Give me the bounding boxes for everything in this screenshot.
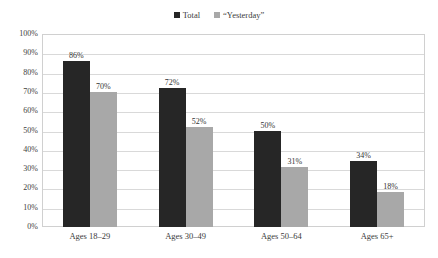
bar-slot: 70%: [90, 34, 117, 227]
legend-label-yesterday: “Yesterday”: [223, 10, 264, 20]
y-axis-tick-label: 0%: [0, 223, 38, 231]
bar-group: 72%52%: [138, 34, 234, 227]
bar: [186, 127, 213, 227]
bar-slot: 34%: [350, 34, 377, 227]
y-axis-tick-label: 20%: [0, 184, 38, 192]
bar-value-label: 52%: [192, 117, 207, 126]
bar-value-label: 72%: [165, 78, 180, 87]
y-axis-tick-label: 70%: [0, 88, 38, 96]
chart-legend: Total “Yesterday”: [0, 8, 438, 22]
bar-value-label: 31%: [288, 157, 303, 166]
bar-value-label: 50%: [261, 121, 276, 130]
bar-slot: 18%: [377, 34, 404, 227]
bar-value-label: 70%: [96, 82, 111, 91]
bar-slot: 86%: [63, 34, 90, 227]
bar-slot: 52%: [186, 34, 213, 227]
bar: [281, 167, 308, 227]
bar-group: 86%70%: [42, 34, 138, 227]
y-axis-tick-label: 100%: [0, 30, 38, 38]
y-axis-tick-label: 30%: [0, 165, 38, 173]
bar-value-label: 86%: [69, 51, 84, 60]
bar: [159, 88, 186, 227]
y-axis-tick-label: 60%: [0, 107, 38, 115]
y-axis-tick-label: 10%: [0, 204, 38, 212]
bar: [63, 61, 90, 227]
bar-slot: 50%: [254, 34, 281, 227]
bar-value-label: 18%: [383, 182, 398, 191]
x-axis-tick-label: Ages 65+: [329, 229, 425, 245]
x-axis: Ages 18–29Ages 30–49Ages 50–64Ages 65+: [42, 229, 425, 245]
x-axis-tick-label: Ages 30–49: [138, 229, 234, 245]
legend-swatch-yesterday: [214, 12, 220, 18]
bar-value-label: 34%: [356, 151, 371, 160]
y-axis-tick-label: 40%: [0, 146, 38, 154]
legend-label-total: Total: [183, 10, 200, 20]
y-axis-tick-label: 90%: [0, 49, 38, 57]
bar-group: 50%31%: [234, 34, 330, 227]
plot-area: 86%70%72%52%50%31%34%18%: [42, 34, 425, 227]
legend-entry-total: Total: [174, 10, 200, 20]
y-axis-tick-label: 80%: [0, 69, 38, 77]
bar-group: 34%18%: [329, 34, 425, 227]
y-axis: 100%90%80%70%60%50%40%30%20%10%0%: [0, 34, 38, 227]
bar-slot: 72%: [159, 34, 186, 227]
bar: [90, 92, 117, 227]
y-axis-tick-label: 50%: [0, 127, 38, 135]
bar: [377, 192, 404, 227]
bar-slot: 31%: [281, 34, 308, 227]
legend-entry-yesterday: “Yesterday”: [214, 10, 264, 20]
bar-chart: Total “Yesterday” 100%90%80%70%60%50%40%…: [0, 0, 438, 258]
x-axis-tick-label: Ages 18–29: [42, 229, 138, 245]
bar: [350, 161, 377, 227]
x-axis-tick-label: Ages 50–64: [234, 229, 330, 245]
bar: [254, 131, 281, 228]
legend-swatch-total: [174, 12, 180, 18]
